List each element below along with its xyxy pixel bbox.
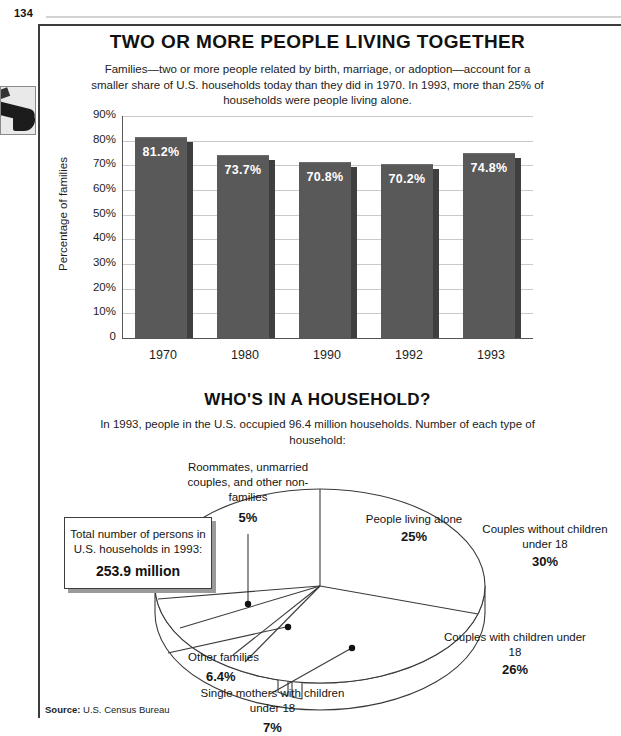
- bar-value-label: 70.2%: [381, 172, 433, 186]
- bar-chart-y-tick-label: 60%: [76, 182, 116, 194]
- header-rule: [46, 16, 621, 18]
- pie-label-text: Couples without children under 18: [482, 523, 607, 550]
- bar-chart-x-tick-label: 1980: [210, 348, 280, 362]
- page-number: 134: [14, 7, 33, 19]
- pie-label-value: 30%: [482, 554, 608, 571]
- bar-chart-y-tick-label: 30%: [76, 256, 116, 268]
- bar-value-label: 73.7%: [217, 163, 269, 177]
- photo-thumbnail-icon: [0, 86, 36, 135]
- bar-body: 70.8%: [299, 162, 351, 338]
- bar-body: 70.2%: [381, 164, 433, 338]
- bar-value-label: 74.8%: [463, 161, 515, 175]
- pie-label-value: 7%: [263, 720, 282, 735]
- pie-label-value: 6.4%: [206, 669, 236, 684]
- bar-chart-y-tick-label: 90%: [76, 108, 116, 120]
- bar-chart-plot-area: 81.2%73.7%70.8%70.2%74.8%: [122, 116, 533, 339]
- pie-label-text: Couples with children under 18: [444, 631, 586, 658]
- bar-column[interactable]: 70.8%: [299, 163, 357, 338]
- bar-value-label: 81.2%: [135, 145, 187, 159]
- bar-chart-y-tick-label: 70%: [76, 157, 116, 169]
- bar-3d-side: [187, 142, 193, 338]
- pie-label-value: 26%: [440, 662, 590, 679]
- thumbnail-shape-b: [13, 109, 35, 131]
- bar-chart-gridline: [123, 116, 533, 117]
- bar-3d-side: [269, 160, 275, 338]
- bar-chart-y-axis-title: Percentage of families: [57, 139, 69, 289]
- pie-chart-title: WHO'S IN A HOUSEHOLD?: [40, 390, 595, 410]
- total-persons-box: Total number of persons in U.S. househol…: [64, 517, 212, 589]
- bar-chart-y-tick-label: 0: [76, 330, 116, 342]
- pie-label-couples-without-children: Couples without children under 18 30%: [482, 522, 608, 571]
- pie-chart-subtitle: In 1993, people in the U.S. occupied 96.…: [80, 417, 555, 448]
- pie-label-text: People living alone: [366, 513, 463, 525]
- figure-frame: TWO OR MORE PEOPLE LIVING TOGETHER Famil…: [38, 24, 621, 718]
- pie-label-text: Single mothers with children under 18: [201, 687, 345, 714]
- bar-chart-y-tick-label: 10%: [76, 305, 116, 317]
- leader-dot-single-mothers: [349, 645, 355, 651]
- pie-label-text: Roommates, unmarried couples, and other …: [188, 461, 309, 503]
- thumbnail-shape-c: [0, 87, 10, 100]
- bar-column[interactable]: 73.7%: [217, 156, 275, 338]
- pie-label-value: 5%: [239, 510, 258, 525]
- total-persons-value: 253.9 million: [96, 563, 180, 579]
- bar-chart-x-tick-label: 1990: [292, 348, 362, 362]
- bar-chart-y-tick-label: 50%: [76, 207, 116, 219]
- source-line: Source: U.S. Census Bureau: [45, 704, 170, 715]
- pie-label-couples-with-children: Couples with children under 18 26%: [440, 630, 590, 679]
- bar-3d-side: [433, 169, 439, 338]
- bar-column[interactable]: 70.2%: [381, 165, 439, 338]
- bar-chart: Percentage of families 010%20%30%40%50%6…: [40, 112, 595, 377]
- bar-column[interactable]: 74.8%: [463, 154, 521, 339]
- bar-body: 73.7%: [217, 155, 269, 338]
- total-persons-label: Total number of persons in U.S. househol…: [65, 527, 211, 557]
- pie-label-value: 25%: [358, 529, 470, 546]
- pie-label-text: Other families: [188, 651, 259, 663]
- bar-body: 74.8%: [463, 153, 515, 339]
- pie-label-single-mothers: Single mothers with children under 18 7%: [200, 686, 345, 736]
- source-label: Source:: [45, 704, 80, 715]
- source-value: U.S. Census Bureau: [83, 704, 170, 715]
- bar-body: 81.2%: [135, 137, 187, 338]
- bar-chart-x-tick-label: 1992: [374, 348, 444, 362]
- bar-chart-x-tick-label: 1993: [456, 348, 526, 362]
- pie-label-people-living-alone: People living alone 25%: [358, 512, 470, 546]
- leader-dot-roommates: [245, 601, 251, 607]
- bar-chart-y-tick-label: 80%: [76, 133, 116, 145]
- bar-chart-x-tick-label: 1970: [128, 348, 198, 362]
- bar-chart-title: TWO OR MORE PEOPLE LIVING TOGETHER: [40, 31, 595, 53]
- bar-chart-y-tick-label: 20%: [76, 281, 116, 293]
- bar-chart-y-tick-label: 40%: [76, 231, 116, 243]
- bar-column[interactable]: 81.2%: [135, 138, 193, 338]
- bar-chart-subtitle: Families—two or more people related by b…: [90, 62, 545, 109]
- bar-3d-side: [351, 167, 357, 338]
- bar-value-label: 70.8%: [299, 170, 351, 184]
- pie-label-other-families: Other families 6.4%: [188, 650, 316, 686]
- leader-dot-other-families: [285, 624, 291, 630]
- bar-3d-side: [515, 158, 521, 339]
